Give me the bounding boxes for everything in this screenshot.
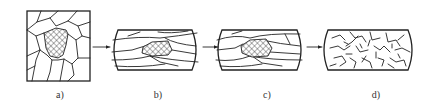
panel-b-label: b) [154,89,162,100]
panel-a-label: a) [56,89,64,100]
panel-d [324,30,412,70]
panel-a [27,11,90,81]
panel-b [112,30,198,70]
panel-c [216,30,302,70]
panel-c-label: c) [263,89,271,100]
panel-d-label: d) [372,89,380,100]
